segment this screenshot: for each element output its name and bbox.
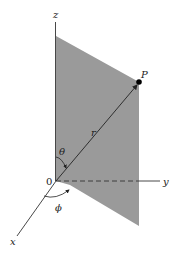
- shaded-half-plane: [56, 36, 139, 226]
- phi-arc: [44, 190, 69, 197]
- z-axis-label: z: [52, 9, 59, 20]
- y-axis-label: y: [162, 176, 169, 187]
- phi-label: ϕ: [55, 202, 62, 213]
- x-axis-label: x: [10, 236, 16, 247]
- point-p: [136, 79, 142, 85]
- x-axis: [17, 181, 56, 236]
- origin-label: 0: [46, 176, 52, 187]
- theta-label: θ: [59, 146, 65, 157]
- spherical-coordinates-diagram: z y x 0 P r θ ϕ: [0, 0, 182, 259]
- point-p-label: P: [140, 69, 148, 80]
